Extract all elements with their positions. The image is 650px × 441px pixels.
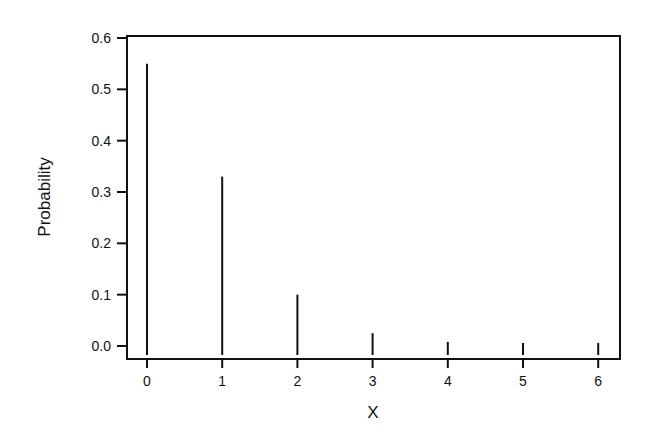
y-tick-label: 0.6: [92, 30, 112, 46]
plot-frame: [127, 36, 620, 359]
plot-border: [127, 36, 620, 359]
y-axis: 0.00.10.20.30.40.50.6: [92, 30, 127, 354]
x-tick-label: 2: [294, 373, 302, 389]
y-tick-label: 0.5: [92, 81, 112, 97]
x-tick-label: 0: [143, 373, 151, 389]
x-axis-label: X: [367, 403, 378, 422]
x-tick-label: 3: [369, 373, 377, 389]
y-tick-label: 0.0: [92, 338, 112, 354]
x-tick-label: 6: [594, 373, 602, 389]
x-tick-label: 1: [218, 373, 226, 389]
x-tick-label: 4: [444, 373, 452, 389]
y-tick-label: 0.4: [92, 133, 112, 149]
y-tick-label: 0.3: [92, 184, 112, 200]
x-axis: 0123456: [143, 359, 602, 389]
y-tick-label: 0.2: [92, 235, 112, 251]
y-axis-label: Probability: [35, 157, 54, 237]
x-tick-label: 5: [519, 373, 527, 389]
bars: [147, 64, 598, 355]
probability-chart: 0.00.10.20.30.40.50.6 0123456 X Probabil…: [0, 0, 650, 441]
y-tick-label: 0.1: [92, 287, 112, 303]
